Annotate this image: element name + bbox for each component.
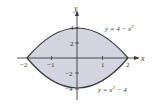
y-axis-label: y <box>73 4 78 13</box>
tick-label-y-4: 4 <box>70 24 74 32</box>
tick-label-x-m1: −1 <box>47 61 55 69</box>
tick-label-y-m4: −4 <box>65 85 73 93</box>
bottom-curve-label: y = x2 − 4 <box>97 85 127 94</box>
region-diagram: x y −2 −1 1 2 4 2 −2 −4 y = 4 − x2 y = x… <box>0 0 167 104</box>
top-curve-label: y = 4 − x2 <box>104 24 134 33</box>
tick-label-y-2: 2 <box>70 40 74 48</box>
tick-label-x-2: 2 <box>126 61 130 69</box>
tick-label-y-m2: −2 <box>65 70 73 78</box>
tick-label-x-m2: −2 <box>20 61 28 69</box>
x-axis-arrow-icon <box>134 56 140 60</box>
x-axis-label: x <box>140 54 145 63</box>
tick-label-x-1: 1 <box>101 61 105 69</box>
